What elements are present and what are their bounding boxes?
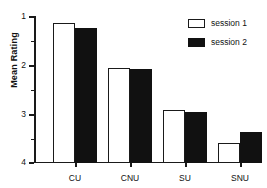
y-tick-1-5 <box>31 41 35 43</box>
bar-snu-session-1 <box>218 143 240 163</box>
y-axis-title: Mean Rating <box>9 20 19 100</box>
bar-cu-session-1 <box>53 23 75 163</box>
x-tick-su: SU <box>185 163 187 167</box>
x-axis-label-cu: CU <box>69 174 81 183</box>
bar-chart-figure: Mean Rating 1 2 3 4 CU CNU SU SNU <box>0 0 267 188</box>
x-axis-label-su: SU <box>179 174 191 183</box>
y-tick-label-2: 2 <box>21 61 26 70</box>
legend-label-session-2: session 2 <box>211 38 247 47</box>
y-tick-2-5 <box>31 90 35 92</box>
chart-legend: session 1 session 2 <box>188 16 247 54</box>
y-tick-3: 3 <box>29 114 34 116</box>
bar-snu-session-2 <box>240 132 262 163</box>
legend-label-session-1: session 1 <box>211 19 247 28</box>
y-tick-label-4: 4 <box>21 158 26 167</box>
bar-su-session-1 <box>163 110 185 163</box>
x-tick-cnu: CNU <box>130 163 132 167</box>
legend-swatch-session-2 <box>188 38 205 47</box>
bar-cnu-session-2 <box>130 69 152 163</box>
y-tick-4: 4 <box>29 162 34 164</box>
x-tick-cu: CU <box>75 163 77 167</box>
legend-swatch-session-1 <box>188 19 205 28</box>
y-tick-2: 2 <box>29 65 34 67</box>
x-axis-label-snu: SNU <box>231 174 249 183</box>
bar-su-session-2 <box>185 112 207 163</box>
bar-cu-session-2 <box>75 28 97 163</box>
y-tick-label-3: 3 <box>21 110 26 119</box>
x-tick-snu: SNU <box>240 163 242 167</box>
y-tick-3-5 <box>31 139 35 141</box>
legend-item-session-1: session 1 <box>188 16 247 30</box>
y-tick-1: 1 <box>29 16 34 18</box>
y-tick-label-1: 1 <box>21 12 26 21</box>
bar-cnu-session-1 <box>108 68 130 163</box>
x-axis-label-cnu: CNU <box>121 174 139 183</box>
legend-item-session-2: session 2 <box>188 35 247 49</box>
y-axis-line <box>34 16 36 163</box>
